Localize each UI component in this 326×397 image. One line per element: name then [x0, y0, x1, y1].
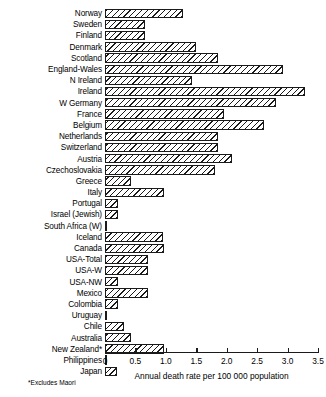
x-tick-label: 0.5 [130, 356, 142, 366]
chart-row: Chile [0, 321, 326, 332]
bar-track [105, 109, 318, 120]
category-label: Norway [0, 9, 102, 18]
bar [105, 109, 224, 118]
bar-track [105, 265, 318, 276]
category-label: Chile [0, 322, 102, 331]
bar [105, 255, 148, 264]
chart-row: England-Wales [0, 64, 326, 75]
category-label: England-Wales [0, 65, 102, 74]
bar [105, 9, 183, 18]
bar-track [105, 64, 318, 75]
chart-row: Belgium [0, 120, 326, 131]
chart-row: W Germany [0, 98, 326, 109]
bar-track [105, 165, 318, 176]
chart-row: Canada [0, 243, 326, 254]
category-label: USA-Total [0, 255, 102, 264]
bar [105, 232, 163, 241]
chart-row: Czechoslovakia [0, 165, 326, 176]
horizontal-bar-chart: NorwaySwedenFinlandDenmarkScotlandEnglan… [0, 0, 326, 397]
category-label: Japan [0, 367, 102, 376]
chart-row: Greece [0, 176, 326, 187]
bar-track [105, 321, 318, 332]
bar [105, 31, 145, 40]
chart-row: USA-Total [0, 254, 326, 265]
bar-track [105, 198, 318, 209]
chart-row: Uruguay [0, 310, 326, 321]
bar-track [105, 153, 318, 164]
bar [105, 176, 131, 185]
bar-track [105, 310, 318, 321]
bar [105, 333, 131, 342]
category-label: Italy [0, 188, 102, 197]
chart-row: Denmark [0, 42, 326, 53]
bar [105, 65, 283, 74]
bar [105, 143, 218, 152]
chart-row: Sweden [0, 19, 326, 30]
category-label: Austria [0, 155, 102, 164]
bar-track [105, 187, 318, 198]
category-label: Australia [0, 334, 102, 343]
category-label: France [0, 110, 102, 119]
x-tick [257, 348, 258, 353]
chart-row: Austria [0, 153, 326, 164]
category-label: Sweden [0, 20, 102, 29]
category-label: Mexico [0, 289, 102, 298]
chart-row: Switzerland [0, 142, 326, 153]
bar-track [105, 142, 318, 153]
category-label: Portugal [0, 199, 102, 208]
chart-row: Netherlands [0, 131, 326, 142]
x-tick [318, 348, 319, 353]
x-axis: 00.51.01.52.02.53.03.5 [105, 352, 318, 353]
chart-row: Mexico [0, 288, 326, 299]
category-label: W Germany [0, 99, 102, 108]
x-tick [135, 348, 136, 353]
chart-row: France [0, 109, 326, 120]
x-tick-label: 3.0 [282, 356, 294, 366]
bar [105, 199, 118, 208]
bar [105, 165, 215, 174]
bar-track [105, 176, 318, 187]
bar [105, 221, 107, 230]
bar [105, 87, 305, 96]
category-label: Israel (Jewish) [0, 210, 102, 219]
bar [105, 299, 118, 308]
category-label: Netherlands [0, 132, 102, 141]
bar [105, 266, 148, 275]
bar [105, 277, 118, 286]
category-label: Czechoslovakia [0, 166, 102, 175]
bar-track [105, 332, 318, 343]
category-label: N Ireland [0, 76, 102, 85]
chart-row: South Africa (W) [0, 221, 326, 232]
category-label: Canada [0, 244, 102, 253]
bar [105, 288, 148, 297]
category-label: Iceland [0, 233, 102, 242]
chart-row: Colombia [0, 299, 326, 310]
bar-track [105, 8, 318, 19]
bar-track [105, 221, 318, 232]
bar-track [105, 131, 318, 142]
bar-track [105, 120, 318, 131]
chart-row: Finland [0, 30, 326, 41]
bar-track [105, 98, 318, 109]
x-tick-label: 3.5 [312, 356, 324, 366]
x-axis-label: Annual death rate per 100 000 population [105, 371, 318, 381]
chart-rows: NorwaySwedenFinlandDenmarkScotlandEnglan… [0, 8, 326, 377]
chart-row: Iceland [0, 232, 326, 243]
bar-track [105, 86, 318, 97]
category-label: South Africa (W) [0, 222, 102, 231]
bar [105, 20, 145, 29]
bar-track [105, 277, 318, 288]
bar [105, 188, 164, 197]
bar [105, 322, 124, 331]
chart-row: Italy [0, 187, 326, 198]
chart-row: N Ireland [0, 75, 326, 86]
bar [105, 42, 196, 51]
chart-row: Ireland [0, 86, 326, 97]
category-label: Uruguay [0, 311, 102, 320]
x-tick [288, 348, 289, 353]
category-label: Philippines [0, 356, 102, 365]
bar-track [105, 19, 318, 30]
chart-footnote: *Excludes Maori [28, 379, 76, 386]
chart-row: Scotland [0, 53, 326, 64]
bar [105, 311, 107, 320]
